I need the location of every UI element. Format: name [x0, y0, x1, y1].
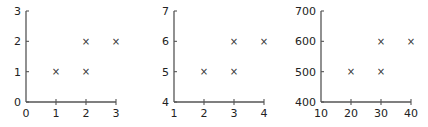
x-tick-label: 10: [314, 107, 328, 120]
y-tick-label: 2: [14, 35, 21, 48]
data-point-x-marker: ×: [82, 36, 90, 47]
y-tick-label: 0: [14, 96, 21, 109]
y-tick-label: 6: [162, 35, 169, 48]
scatter-panel-2: 45671234××××: [162, 5, 268, 120]
x-tick-label: 2: [83, 107, 90, 120]
data-point-x-marker: ×: [407, 36, 415, 47]
y-tick-label: 4: [162, 96, 169, 109]
data-point-x-marker: ×: [260, 36, 268, 47]
y-tick-label: 700: [295, 5, 316, 18]
y-tick-label: 3: [14, 5, 21, 18]
data-point-x-marker: ×: [377, 66, 385, 77]
x-tick-label: 30: [374, 107, 388, 120]
y-tick-label: 7: [162, 5, 169, 18]
y-tick-label: 600: [295, 35, 316, 48]
y-tick-label: 1: [14, 66, 21, 79]
y-tick-label: 5: [162, 66, 169, 79]
x-tick-label: 40: [404, 107, 418, 120]
x-tick-label: 3: [113, 107, 120, 120]
scatter-panel-1: 01230123××××: [14, 5, 120, 120]
y-tick-label: 400: [295, 96, 316, 109]
data-point-x-marker: ×: [112, 36, 120, 47]
y-tick-label: 500: [295, 66, 316, 79]
data-point-x-marker: ×: [52, 66, 60, 77]
scatter-plots-figure: 01230123××××45671234××××4005006007001020…: [0, 0, 428, 127]
x-tick-label: 0: [23, 107, 30, 120]
data-point-x-marker: ×: [230, 36, 238, 47]
x-tick-label: 4: [261, 107, 268, 120]
x-tick-label: 3: [231, 107, 238, 120]
x-tick-label: 1: [53, 107, 60, 120]
data-point-x-marker: ×: [377, 36, 385, 47]
scatter-panel-3: 40050060070010203040××××: [295, 5, 418, 120]
x-tick-label: 1: [171, 107, 178, 120]
data-point-x-marker: ×: [347, 66, 355, 77]
data-point-x-marker: ×: [200, 66, 208, 77]
data-point-x-marker: ×: [82, 66, 90, 77]
data-point-x-marker: ×: [230, 66, 238, 77]
x-tick-label: 20: [344, 107, 358, 120]
x-tick-label: 2: [201, 107, 208, 120]
